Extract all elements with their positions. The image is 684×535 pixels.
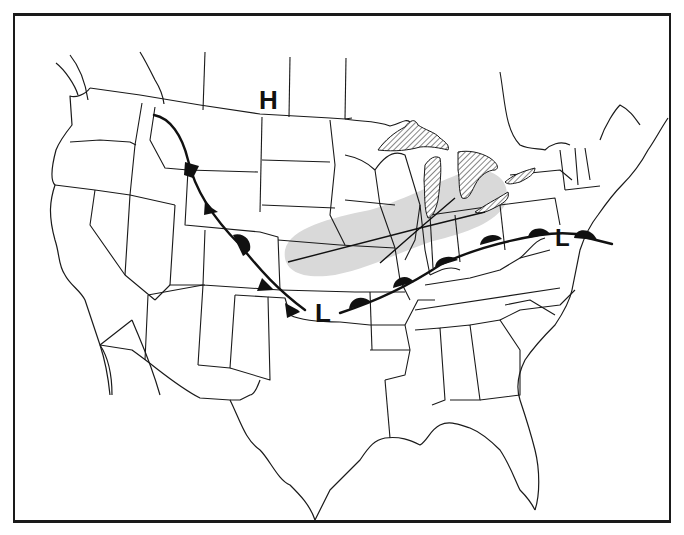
low-pressure-label-central: L [315,300,331,326]
warm-front-semicircle-icon [528,228,550,238]
low-pressure-label-east: L [555,226,570,250]
cold-front-triangle-icon [204,200,218,215]
warm-front-semicircle-icon [574,230,597,240]
weather-map [0,0,684,535]
high-pressure-label: H [259,87,278,113]
cold-front-triangle-icon [184,162,199,178]
cold-front [154,115,305,318]
country-outline [50,52,668,520]
warm-front-semicircle-icon [435,257,458,267]
